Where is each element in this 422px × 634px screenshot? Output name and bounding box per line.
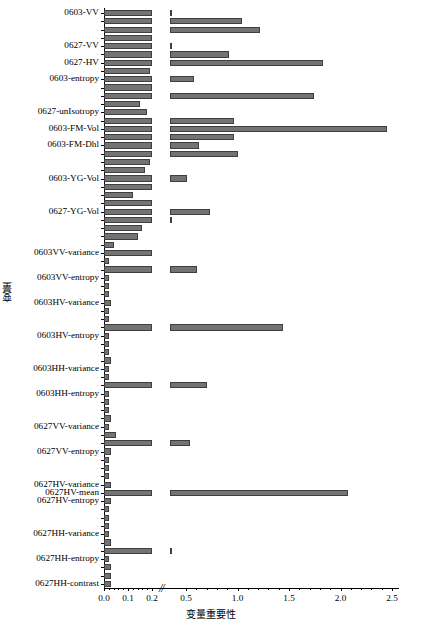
- bar: [104, 399, 109, 405]
- bar: [104, 531, 109, 537]
- bar: [104, 415, 111, 421]
- x-minor-tick: [227, 588, 228, 590]
- bar-continued: [170, 10, 172, 16]
- y-tick-label: 0627HV-entropy: [37, 496, 99, 505]
- bar: [104, 167, 145, 173]
- bar: [104, 556, 109, 562]
- bar-continued: [170, 209, 210, 215]
- bar: [104, 217, 152, 223]
- x-tick-label: 1.5: [283, 593, 294, 603]
- bar: [104, 341, 109, 347]
- y-tick-label: 0603-FM-Dhl: [47, 140, 99, 149]
- x-tick: [104, 588, 105, 591]
- x-minor-tick: [142, 588, 143, 590]
- bar: [104, 60, 152, 66]
- bar: [104, 440, 152, 446]
- axis-break-marker: //: [159, 581, 164, 596]
- x-minor-tick: [118, 588, 119, 590]
- x-minor-tick: [238, 588, 239, 590]
- bar-continued: [170, 51, 229, 57]
- bar: [104, 126, 152, 132]
- bar: [104, 300, 111, 306]
- x-minor-tick: [258, 588, 259, 590]
- bar: [104, 457, 109, 463]
- y-tick-label: 0603HH-entropy: [36, 389, 99, 398]
- y-tick-label: 0603HV-variance: [34, 298, 99, 307]
- x-minor-tick: [361, 588, 362, 590]
- bar: [104, 225, 142, 231]
- y-tick-label: 0603HH-variance: [33, 364, 99, 373]
- y-tick-label: 0603-entropy: [50, 74, 100, 83]
- y-tick-label: 0627HH-entropy: [36, 554, 99, 563]
- bar: [104, 35, 152, 41]
- x-tick-label: 0.5: [180, 593, 191, 603]
- bar-continued: [170, 134, 234, 140]
- bar: [104, 258, 109, 264]
- x-minor-tick: [382, 588, 383, 590]
- bar: [104, 573, 111, 579]
- x-minor-tick: [392, 588, 393, 590]
- x-minor-tick: [196, 588, 197, 590]
- bar: [104, 142, 152, 148]
- x-tick-label: 2.5: [386, 593, 397, 603]
- bar: [104, 482, 111, 488]
- x-minor-tick: [279, 588, 280, 590]
- x-tick-label: 0.1: [122, 593, 133, 603]
- x-axis-title: 变量重要性: [0, 606, 422, 621]
- bar: [104, 101, 140, 107]
- bar: [104, 184, 152, 190]
- x-minor-tick: [310, 588, 311, 590]
- bar: [104, 10, 152, 16]
- x-minor-tick: [341, 588, 342, 590]
- x-minor-tick: [320, 588, 321, 590]
- x-minor-tick: [207, 588, 208, 590]
- bar: [104, 18, 152, 24]
- x-minor-tick: [128, 588, 129, 590]
- bar: [104, 424, 109, 430]
- bar-continued: [170, 266, 197, 272]
- bar: [104, 523, 109, 529]
- bar: [104, 118, 152, 124]
- x-minor-tick: [123, 588, 124, 590]
- bar: [104, 200, 152, 206]
- bar: [104, 564, 111, 570]
- bar: [104, 159, 150, 165]
- x-minor-tick: [186, 588, 187, 590]
- x-tick-label: 1.0: [232, 593, 243, 603]
- x-tick-label: 0.0: [98, 593, 109, 603]
- bar: [104, 192, 133, 198]
- y-tick-label: 0627HH-contrast: [35, 579, 99, 588]
- x-minor-tick: [351, 588, 352, 590]
- bar: [104, 266, 152, 272]
- y-tick-label: 0627-YG-Vol: [49, 207, 99, 216]
- y-tick-label: 0603-FM-Vol: [49, 124, 99, 133]
- bar: [104, 539, 111, 545]
- bar: [104, 308, 109, 314]
- bar: [104, 250, 152, 256]
- y-tick-label: 0627VV-entropy: [37, 447, 99, 456]
- y-tick-label: 0603-VV: [64, 8, 99, 17]
- bar: [104, 515, 109, 521]
- bar: [104, 432, 116, 438]
- bar: [104, 391, 109, 397]
- bar: [104, 324, 152, 330]
- y-tick-label: 0627HH-variance: [33, 529, 99, 538]
- x-minor-tick: [299, 588, 300, 590]
- bar: [104, 68, 150, 74]
- bar: [104, 357, 111, 363]
- x-minor-tick: [109, 588, 110, 590]
- bar: [104, 498, 111, 504]
- x-minor-tick: [133, 588, 134, 590]
- bar-continued: [170, 440, 190, 446]
- bar-continued: [170, 126, 387, 132]
- bar-continued: [170, 217, 172, 223]
- bar-continued: [170, 151, 238, 157]
- bar: [104, 448, 111, 454]
- bar-continued: [170, 93, 314, 99]
- x-minor-tick: [330, 588, 331, 590]
- bar: [104, 333, 109, 339]
- y-tick-label: 0627-VV: [64, 41, 99, 50]
- bar-continued: [170, 60, 323, 66]
- bar: [104, 283, 109, 289]
- x-minor-tick: [248, 588, 249, 590]
